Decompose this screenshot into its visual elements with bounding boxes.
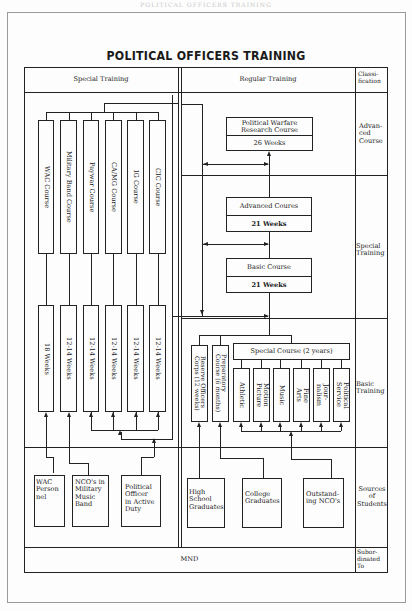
drop-special [291,335,292,343]
course-political-warfare-research: Political Warfare Research Course 26 Wee… [226,117,313,151]
course-reserve-officers-corps: Reserve Officers Corps (12 weeks) [191,345,208,422]
duration-cic: 12-14 Weeks [149,305,166,412]
connector [113,254,114,306]
major-journalism: Jour- nalism [313,368,330,422]
major-fine-arts: Fine Arts [293,368,310,422]
course-ca-mg: CA/MG Course [105,120,122,254]
course-label: Preparatory Course (6 months) [214,354,227,412]
special-courses-top-bar [46,112,159,113]
major-label: Political Service [334,382,348,409]
major-drop [241,360,242,368]
arrow-up-icon [152,438,156,443]
section-divider-b [181,67,182,547]
reg-trunk [202,104,203,316]
basic-bus [199,335,291,336]
course-special-2-years: Special Course (2 years) [233,343,350,360]
course-preparatory: Preparatory Course (6 months) [212,345,229,422]
source-line-nco-h [69,463,88,464]
header-regular-training: Regular Training [181,67,355,92]
course-advanced: Advanced Coures 21 Weeks [226,197,312,232]
row-divider-advanced [181,175,388,176]
connector [158,254,159,306]
source-line-po-h [141,457,154,458]
stem [91,112,92,120]
stem [69,112,70,120]
bus-feed [121,432,122,439]
connector [69,254,70,306]
stem [136,112,137,120]
header-divider [24,92,388,93]
stem [46,112,47,120]
duration-label: 18 Weeks [42,343,49,375]
duration-label: 12-14 Weeks [87,337,94,380]
course-duration: 26 Weeks [227,136,312,152]
source-wac-personnel: WAC Person nel [34,475,65,527]
stem [158,112,159,120]
connector [91,254,92,306]
source-line-nco-v [88,463,89,475]
source-line-nco-r-v [331,459,332,478]
source-line-wac-h [46,457,53,458]
duration-label: 12-14 Weeks [154,337,161,380]
special-bus [91,430,158,431]
major-drop [261,360,262,368]
duration-ca-mg: 12-14 Weeks [105,305,122,412]
major-bus-drop [341,426,342,431]
source-line-wac-v [53,457,54,473]
source-line-college [220,426,221,458]
course-label: Military Band Course [65,151,72,223]
link-adv-to-pwr [269,153,270,200]
stem [113,112,114,120]
source-nco-military-band: NCO's in Military Music Band [72,475,109,527]
source-line-college-h [220,458,263,459]
source-line-nco [69,417,70,463]
bus-drop [91,412,92,430]
course-label: Reserve Officers Corps (12 weeks) [193,356,206,411]
bus-drop [136,412,137,430]
course-basic: Basic Course 21 Weeks [226,258,312,293]
source-outstanding-ncos: Outstand- ing NCO's [303,478,344,528]
source-line-nco-r-h [291,459,331,460]
course-duration: 21 Weeks [227,216,311,233]
class-label-advanced: Advan- ced Course [359,123,383,145]
arrow-up-icon [267,151,271,156]
bus-drop [158,412,159,430]
duration-wac: 18 Weeks [38,305,54,412]
major-political-service: Political Service [333,368,350,422]
source-line-nco-r [291,435,292,459]
source-line-hs [199,426,200,478]
row-divider-special [181,318,388,319]
section-divider-a [178,67,179,547]
link-adv [203,244,268,245]
header-special-training: Special Training [24,67,178,92]
connector [136,254,137,306]
course-military-band: Military Band Course [60,120,77,254]
arrow-left-icon [203,162,208,166]
source-high-school-graduates: High School Graduates [187,478,225,528]
course-paywar: Paywar Course [83,120,99,254]
course-label: CA/MG Course [110,162,117,212]
class-label-subordinated: Subor- dinated To [357,549,380,569]
course-name: Advanced Coures [227,198,311,216]
duration-label: 12-14 Weeks [110,337,117,380]
duration-ig: 12-14 Weeks [127,305,144,412]
major-drop [301,360,302,368]
connector [46,254,47,306]
source-line-college-v [263,458,264,478]
source-college-graduates: College Graduates [242,478,282,528]
major-label: Music [278,385,285,405]
course-label: IG Course [132,170,139,204]
class-label-sources: Sources of Students [356,486,388,508]
course-wac: WAC Course [38,120,54,254]
course-duration: 21 Weeks [227,277,311,294]
major-label: Fine Arts [294,388,308,403]
duration-label: 12-14 Weeks [65,337,72,380]
link-basic-to-adv [269,232,270,258]
major-label: Athletic [238,382,245,408]
major-drop [341,360,342,368]
source-political-officer-active-duty: Political Officer in Active Duty [121,475,161,527]
major-label: Motion Picture [254,383,268,407]
major-drop [280,360,281,368]
running-header: POLITICAL OFFICERS TRAINING [0,1,412,8]
course-label: CIC Course [154,168,161,207]
